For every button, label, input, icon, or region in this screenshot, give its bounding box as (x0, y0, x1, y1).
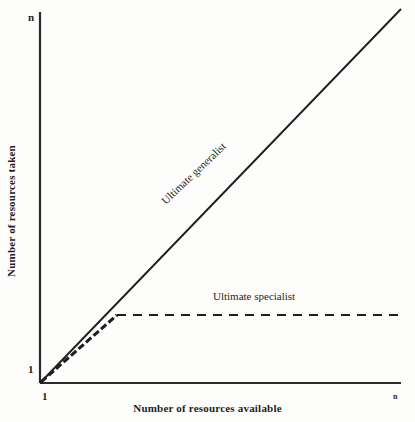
y-axis-tick-max: n (28, 11, 34, 23)
x-axis-tick-min: 1 (42, 390, 48, 402)
series-line-ultimate-generalist (40, 9, 401, 383)
y-axis-title-text: Number of resources taken (5, 145, 17, 277)
series-line-ultimate-specialist-rise (41, 315, 117, 382)
chart-figure: Number of resources taken Number of reso… (0, 0, 415, 422)
x-axis-title: Number of resources available (0, 402, 415, 414)
y-axis-tick-min: 1 (28, 363, 34, 375)
x-axis-tick-max: n (393, 392, 397, 401)
series-annotation-ultimate-specialist: Ultimate specialist (213, 290, 295, 302)
plot-area (0, 0, 415, 422)
y-axis-title: Number of resources taken (0, 0, 22, 422)
